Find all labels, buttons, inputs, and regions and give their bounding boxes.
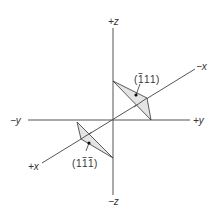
x-axis (42, 69, 195, 163)
plane-upper (113, 81, 151, 120)
label-lower-plane: ( 1 1 1 ) (72, 158, 97, 170)
label-minus-y: −y (10, 115, 22, 126)
lower-plane-normal-dot (87, 141, 90, 144)
upper-plane-normal-dot (134, 93, 137, 96)
label-minus-x: −x (196, 61, 208, 72)
plane-lower (77, 122, 113, 158)
paren-close: ) (156, 74, 159, 85)
diagram-canvas: +z −z +y −y +x −x ( 1 1 1 ) ( 1 1 1 ) (0, 0, 223, 214)
label-plus-x: +x (28, 161, 40, 172)
label-minus-z: −z (108, 196, 119, 207)
label-plus-y: +y (193, 115, 205, 126)
paren-close: ) (94, 158, 97, 169)
label-upper-plane: ( 1 1 1 ) (134, 74, 159, 86)
label-plus-z: +z (108, 16, 119, 27)
